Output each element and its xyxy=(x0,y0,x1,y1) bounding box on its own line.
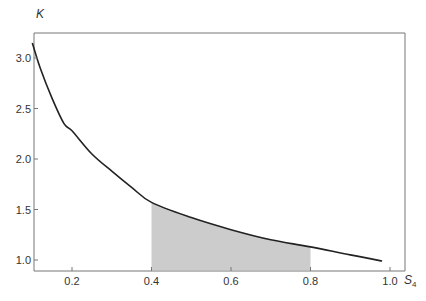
x-axis-ticks: 0.20.40.60.81.0 xyxy=(64,267,397,287)
x-tick-label: 0.4 xyxy=(144,275,159,287)
chart: 0.20.40.60.81.0 1.01.52.02.53.0 K S4 xyxy=(0,0,426,301)
x-tick-label: 0.2 xyxy=(64,275,79,287)
y-tick-label: 2.5 xyxy=(16,103,31,115)
y-tick-label: 1.0 xyxy=(16,254,31,266)
y-tick-label: 1.5 xyxy=(16,204,31,216)
y-axis-ticks: 1.01.52.02.53.0 xyxy=(16,52,38,266)
x-tick-label: 1.0 xyxy=(382,275,397,287)
x-tick-label: 0.6 xyxy=(223,275,238,287)
y-tick-label: 2.0 xyxy=(16,153,31,165)
y-tick-label: 3.0 xyxy=(16,52,31,64)
x-tick-label: 0.8 xyxy=(303,275,318,287)
x-axis-title: S4 xyxy=(404,273,417,289)
y-axis-title: K xyxy=(36,7,45,21)
